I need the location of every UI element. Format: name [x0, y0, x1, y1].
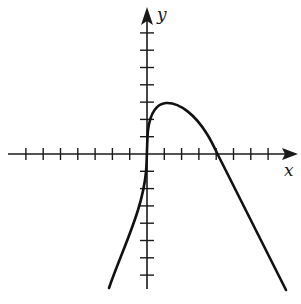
- function-curve: [109, 103, 286, 290]
- x-axis-label: x: [284, 160, 294, 180]
- y-axis-label: y: [157, 4, 167, 24]
- function-graph: [0, 0, 301, 304]
